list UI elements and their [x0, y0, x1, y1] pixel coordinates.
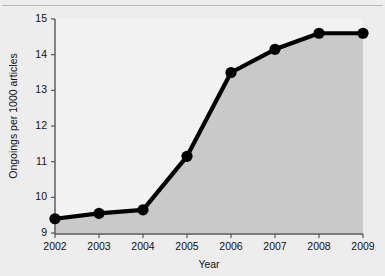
data-point-2006 — [225, 67, 236, 78]
y-tick-label-9: 9 — [25, 226, 47, 238]
y-tick-label-10: 10 — [25, 190, 47, 202]
line-area-chart — [0, 0, 385, 276]
y-tick-label-12: 12 — [25, 119, 47, 131]
data-point-2005 — [181, 151, 192, 162]
data-point-2003 — [93, 208, 104, 219]
x-tick-label-2003: 2003 — [79, 240, 119, 252]
data-point-2008 — [313, 28, 324, 39]
figure-container: Ongoings per 1000 articles Year 91011121… — [0, 0, 385, 276]
x-tick-label-2008: 2008 — [299, 240, 339, 252]
y-tick-label-11: 11 — [25, 155, 47, 167]
y-tick-label-15: 15 — [25, 12, 47, 24]
data-point-2004 — [137, 204, 148, 215]
y-axis-title: Ongoings per 1000 articles — [7, 21, 19, 211]
x-tick-label-2007: 2007 — [255, 240, 295, 252]
x-axis-title: Year — [55, 258, 363, 270]
x-tick-label-2006: 2006 — [211, 240, 251, 252]
data-point-2009 — [357, 28, 368, 39]
x-tick-label-2005: 2005 — [167, 240, 207, 252]
x-tick-label-2004: 2004 — [123, 240, 163, 252]
x-tick-label-2009: 2009 — [343, 240, 383, 252]
x-tick-label-2002: 2002 — [35, 240, 75, 252]
data-point-2002 — [49, 213, 60, 224]
y-tick-label-13: 13 — [25, 83, 47, 95]
y-tick-label-14: 14 — [25, 48, 47, 60]
data-point-2007 — [269, 44, 280, 55]
